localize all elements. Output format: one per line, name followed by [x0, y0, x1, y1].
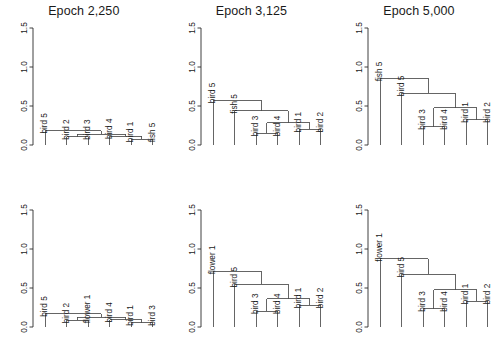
leaf-label: bird 3: [83, 119, 92, 140]
y-axis-tick-label: 1.0: [188, 61, 197, 73]
panel-bottom-left-plot: 0.00.51.01.5bird 5bird 2flower 1bird 4bi…: [0, 182, 168, 364]
panel-bottom-right: 0.00.51.01.5flower 1bird 5bird 3bird 4bi…: [335, 182, 503, 364]
y-axis-tick-label: 0.0: [20, 321, 29, 333]
panel-top-mid-plot: 0.00.51.01.5bird 5fish 5bird 3bird 4bird…: [168, 0, 336, 182]
leaf-label: bird 2: [315, 287, 324, 308]
leaf-label: bird 3: [148, 305, 157, 326]
y-axis-tick-label: 0.0: [188, 321, 197, 333]
y-axis-tick-label: 1.0: [20, 61, 29, 73]
y-axis-tick-label: 0.0: [355, 139, 364, 151]
y-axis-tick-label: 1.0: [188, 243, 197, 255]
y-axis-tick-label: 0.5: [20, 282, 29, 294]
leaf-label: flower 1: [208, 245, 217, 274]
leaf-label: fish 5: [148, 122, 157, 142]
panel-top-mid: Epoch 3,1250.00.51.01.5bird 5fish 5bird …: [168, 0, 336, 182]
leaf-label: bird 2: [62, 119, 71, 140]
leaf-label: bird 5: [397, 75, 406, 96]
y-axis-tick-label: 1.5: [20, 204, 29, 216]
panel-bottom-mid: 0.00.51.01.5flower 1bird 5bird 3bird 4bi…: [168, 182, 336, 364]
y-axis-tick-label: 1.0: [355, 243, 364, 255]
leaf-label: bird 4: [440, 291, 449, 312]
leaf-label: bird 2: [62, 302, 71, 323]
panel-bottom-mid-plot: 0.00.51.01.5flower 1bird 5bird 3bird 4bi…: [168, 182, 336, 364]
leaf-label: bird 1: [294, 111, 303, 132]
y-axis-tick-label: 1.5: [355, 204, 364, 216]
y-axis-tick-label: 1.5: [188, 204, 197, 216]
y-axis-tick-label: 0.0: [20, 139, 29, 151]
leaf-label: fish 5: [229, 94, 238, 114]
y-axis-tick-label: 1.5: [188, 22, 197, 34]
y-axis-tick-label: 0.5: [355, 100, 364, 112]
y-axis-tick-label: 0.0: [355, 321, 364, 333]
panel-top-left: Epoch 2,2500.00.51.01.5bird 5bird 2bird …: [0, 0, 168, 182]
y-axis-tick-label: 1.0: [355, 61, 364, 73]
panel-bottom-right-plot: 0.00.51.01.5flower 1bird 5bird 3bird 4bi…: [335, 182, 503, 364]
y-axis-tick-label: 0.5: [20, 100, 29, 112]
leaf-label: flower 1: [375, 233, 384, 262]
leaf-label: bird 4: [272, 115, 281, 136]
leaf-label: flower 1: [83, 294, 92, 323]
leaf-label: fish 5: [375, 61, 384, 81]
leaf-label: bird 5: [40, 296, 49, 317]
leaf-label: bird 4: [440, 109, 449, 130]
y-axis-tick-label: 0.0: [188, 139, 197, 151]
leaf-label: bird 5: [208, 82, 217, 103]
y-axis-tick-label: 0.5: [355, 282, 364, 294]
leaf-label: bird 4: [105, 118, 114, 139]
y-axis-tick-label: 0.5: [188, 282, 197, 294]
panel-top-right: Epoch 5,0000.00.51.01.5fish 5bird 5bird …: [335, 0, 503, 182]
leaf-label: bird 5: [229, 267, 238, 288]
leaf-label: bird 1: [461, 102, 470, 123]
leaf-label: bird 4: [272, 293, 281, 314]
leaf-label: bird 3: [251, 115, 260, 136]
leaf-label: bird 5: [397, 256, 406, 277]
leaf-label: bird 3: [418, 109, 427, 130]
dendrogram-figure: Epoch 2,2500.00.51.01.5bird 5bird 2bird …: [0, 0, 503, 364]
panel-top-right-plot: 0.00.51.01.5fish 5bird 5bird 3bird 4bird…: [335, 0, 503, 182]
leaf-label: bird 1: [294, 287, 303, 308]
y-axis-tick-label: 0.5: [188, 100, 197, 112]
y-axis-tick-label: 1.5: [20, 22, 29, 34]
leaf-label: bird 4: [105, 302, 114, 323]
leaf-label: bird 1: [126, 305, 135, 326]
leaf-label: bird 2: [483, 283, 492, 304]
leaf-label: bird 2: [483, 102, 492, 123]
leaf-label: bird 1: [126, 121, 135, 142]
leaf-label: bird 5: [40, 113, 49, 134]
leaf-label: bird 1: [461, 283, 470, 304]
y-axis-tick-label: 1.0: [20, 243, 29, 255]
leaf-label: bird 3: [251, 293, 260, 314]
leaf-label: bird 3: [418, 291, 427, 312]
leaf-label: bird 2: [315, 111, 324, 132]
panel-top-left-plot: 0.00.51.01.5bird 5bird 2bird 3bird 4bird…: [0, 0, 168, 182]
y-axis-tick-label: 1.5: [355, 22, 364, 34]
panel-bottom-left: 0.00.51.01.5bird 5bird 2flower 1bird 4bi…: [0, 182, 168, 364]
dendrogram-link: [45, 131, 101, 145]
